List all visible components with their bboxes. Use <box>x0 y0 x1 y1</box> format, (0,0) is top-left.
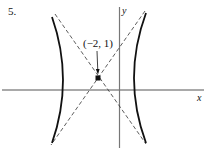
problem-number: 5. <box>8 5 17 17</box>
y-axis-label: y <box>121 5 127 16</box>
label-arrow-shaft <box>97 51 98 71</box>
x-axis-label: x <box>196 92 202 103</box>
hyperbola-left-branch <box>52 17 63 143</box>
center-point-marker <box>96 76 101 81</box>
hyperbola-right-branch <box>134 13 146 143</box>
center-point-label: (−2, 1) <box>83 37 113 50</box>
hyperbola-diagram: 5. y x (−2, 1) <box>0 0 205 150</box>
